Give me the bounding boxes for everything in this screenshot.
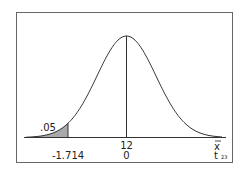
- t-axis-label: t: [214, 150, 218, 161]
- alpha-label: .05: [40, 122, 56, 133]
- t-distribution-chart: .05 12 0 -1.714 x t 23: [0, 0, 248, 174]
- t-axis-subscript: 23: [221, 154, 227, 160]
- critical-value-label: -1.714: [52, 150, 84, 161]
- mean-t-label: 0: [123, 150, 129, 161]
